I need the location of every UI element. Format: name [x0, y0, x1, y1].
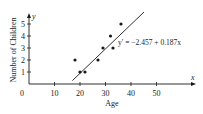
y-tick-label-4: 4	[21, 32, 25, 41]
data-point	[96, 58, 99, 61]
y-axis-arrow-icon	[27, 13, 31, 18]
x-axis-letter: x	[190, 73, 195, 82]
data-point	[78, 70, 81, 73]
data-points	[73, 22, 122, 73]
data-point	[111, 46, 114, 49]
x-tick-label-20: 20	[76, 89, 84, 98]
x-tick-label-30: 30	[102, 89, 110, 98]
data-point	[119, 22, 122, 25]
data-point	[109, 34, 112, 37]
scatter-chart: 0 10 20 30 40 50 1 2 3 4 5 x y Age Numbe…	[0, 0, 203, 114]
y-tick-label-2: 2	[21, 56, 25, 65]
y-axis-letter: y	[31, 12, 36, 21]
y-tick-label-5: 5	[21, 20, 25, 29]
x-tick-label-0: 0	[20, 89, 24, 98]
regression-equation: y′ = −2.457 + 0.187x	[118, 38, 181, 47]
x-tick-label-40: 40	[127, 89, 135, 98]
x-tick-label-50: 50	[153, 89, 161, 98]
y-tick-label-1: 1	[21, 68, 25, 77]
data-point	[101, 46, 104, 49]
data-point	[73, 58, 76, 61]
y-tick-label-3: 3	[21, 44, 25, 53]
data-point	[83, 70, 86, 73]
x-tick-label-10: 10	[51, 89, 59, 98]
x-axis-title: Age	[105, 99, 119, 108]
y-axis-title: Number of Children	[9, 18, 18, 83]
x-axis-arrow-icon	[191, 82, 196, 86]
